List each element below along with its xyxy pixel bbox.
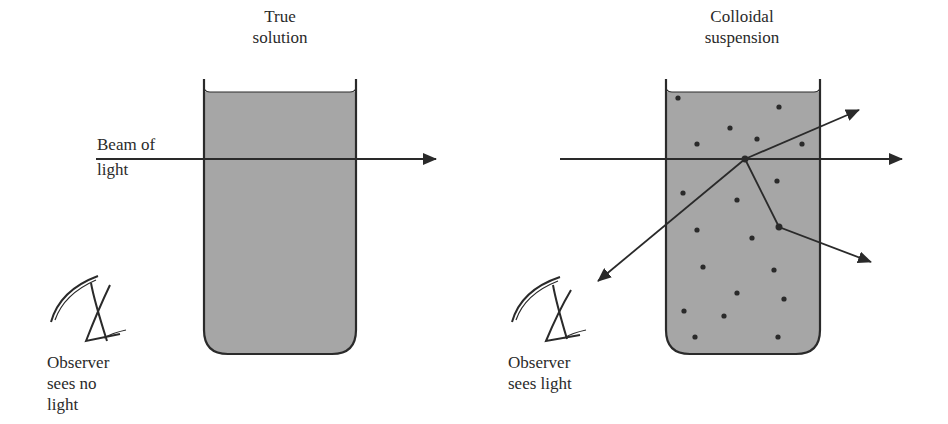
true-solution-title: True solution [210, 6, 350, 48]
observer-no-light-caption: Observer sees no light [47, 352, 109, 415]
observer-sees-light-caption: Observer sees light [508, 352, 572, 394]
title-line: suspension [662, 27, 822, 48]
title-line: True [210, 6, 350, 27]
true-solution-beaker [204, 79, 356, 354]
observer-eye-icon-left [51, 276, 126, 341]
title-line: solution [210, 27, 350, 48]
caption-line: Observer [508, 352, 572, 373]
label-line: light [97, 159, 155, 180]
caption-line: sees no [47, 373, 109, 394]
caption-line: Observer [47, 352, 109, 373]
caption-line: sees light [508, 373, 572, 394]
colloidal-suspension-beaker [666, 79, 820, 354]
beam-of-light-label: Beam of light [97, 134, 155, 180]
label-line: Beam of [97, 134, 155, 155]
diagram-canvas [0, 0, 948, 424]
observer-eye-icon-right [512, 277, 586, 341]
title-line: Colloidal [662, 6, 822, 27]
colloidal-suspension-title: Colloidal suspension [662, 6, 822, 48]
caption-line: light [47, 394, 109, 415]
